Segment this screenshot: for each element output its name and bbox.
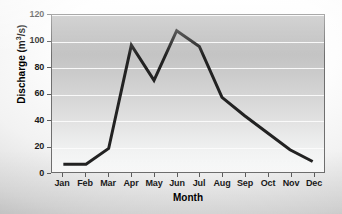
x-tick-mark xyxy=(85,173,86,177)
x-tick-mark xyxy=(314,173,315,177)
y-axis-title-superscript: 3 xyxy=(15,36,22,40)
x-tick-label: Dec xyxy=(299,179,329,188)
y-axis-title-text-after: /s) xyxy=(16,25,27,37)
x-tick-label: Sep xyxy=(230,179,260,188)
x-tick-label: Jul xyxy=(184,179,214,188)
x-tick-mark xyxy=(154,173,155,177)
x-tick-label: Jan xyxy=(47,179,77,188)
y-tick-mark xyxy=(47,173,51,174)
x-tick-mark xyxy=(108,173,109,177)
x-tick-mark xyxy=(199,173,200,177)
x-tick-label: Oct xyxy=(253,179,283,188)
chart-figure: 020406080100120 JanFebMarAprMayJunJulAug… xyxy=(0,0,342,214)
x-tick-label: Aug xyxy=(207,179,237,188)
y-tick-label: 0 xyxy=(16,169,44,178)
x-tick-mark xyxy=(131,173,132,177)
y-axis-title-text-before: Discharge (m xyxy=(16,40,27,103)
x-tick-mark xyxy=(62,173,63,177)
y-tick-label: 20 xyxy=(16,142,44,151)
y-axis-title: Discharge (m3/s) xyxy=(15,0,27,129)
line-series-svg xyxy=(52,15,324,172)
discharge-line xyxy=(63,31,312,164)
x-tick-label: Apr xyxy=(116,179,146,188)
x-tick-mark xyxy=(245,173,246,177)
x-tick-label: Jun xyxy=(162,179,192,188)
x-tick-mark xyxy=(291,173,292,177)
x-axis-title: Month xyxy=(51,192,325,203)
x-tick-mark xyxy=(222,173,223,177)
x-tick-label: Mar xyxy=(93,179,123,188)
x-tick-label: Nov xyxy=(276,179,306,188)
x-tick-mark xyxy=(268,173,269,177)
plot-area xyxy=(51,14,325,173)
x-tick-label: Feb xyxy=(70,179,100,188)
x-tick-mark xyxy=(177,173,178,177)
x-tick-label: May xyxy=(139,179,169,188)
